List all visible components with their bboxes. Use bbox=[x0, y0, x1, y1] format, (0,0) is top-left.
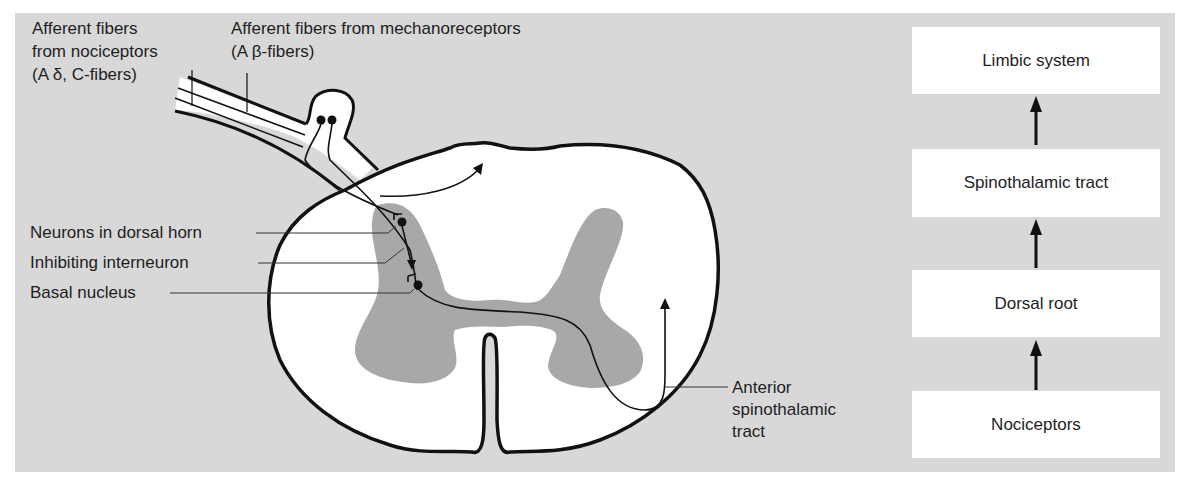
ganglion-cell bbox=[328, 116, 337, 125]
label-nociceptor-fibers-line1: Afferent fibers bbox=[32, 18, 138, 39]
label-nociceptor-fibers-line3: (A δ, C-fibers) bbox=[32, 64, 137, 85]
label-basal-nucleus: Basal nucleus bbox=[30, 282, 136, 303]
spinal-cord-outline bbox=[269, 143, 719, 453]
dorsal-horn-neuron bbox=[398, 218, 407, 227]
label-anterior-tract-line3: tract bbox=[732, 421, 765, 442]
up-arrow-icon bbox=[1030, 219, 1042, 268]
flow-box-spinothalamic-tract: Spinothalamic tract bbox=[912, 149, 1160, 217]
label-anterior-tract-line2: spinothalamic bbox=[732, 399, 836, 420]
label-nociceptor-fibers-line2: from nociceptors bbox=[32, 41, 158, 62]
flow-box-nociceptors: Nociceptors bbox=[912, 391, 1160, 458]
label-anterior-tract-line1: Anterior bbox=[732, 377, 792, 398]
label-dorsal-horn-neurons: Neurons in dorsal horn bbox=[30, 222, 202, 243]
ganglion-cell bbox=[317, 116, 326, 125]
basal-nucleus-neuron bbox=[414, 281, 423, 290]
label-inhibiting-interneuron: Inhibiting interneuron bbox=[30, 252, 189, 273]
flow-box-dorsal-root: Dorsal root bbox=[912, 270, 1160, 337]
up-arrow-icon bbox=[1030, 96, 1042, 145]
flow-box-limbic-system: Limbic system bbox=[912, 27, 1160, 94]
label-mechanoreceptor-fibers-line2: (A β-fibers) bbox=[231, 41, 314, 62]
up-arrow-icon bbox=[1030, 340, 1042, 390]
label-mechanoreceptor-fibers-line1: Afferent fibers from mechanoreceptors bbox=[231, 18, 521, 39]
